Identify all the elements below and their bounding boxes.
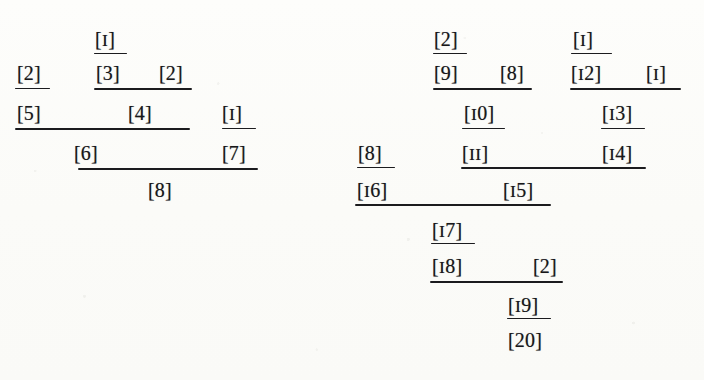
proof-node: [20] bbox=[508, 330, 542, 350]
inference-rule-line bbox=[433, 53, 467, 54]
inference-rule-line bbox=[355, 204, 551, 206]
proof-node: [I0] bbox=[464, 103, 494, 124]
proof-node: [I7] bbox=[432, 220, 462, 241]
inference-rule-line bbox=[357, 167, 395, 168]
derivation-figure: [I][2][3][2][5][4][I][6][7][8][2][I][9][… bbox=[0, 0, 704, 380]
inference-rule-line bbox=[461, 167, 646, 169]
inference-rule-line bbox=[433, 88, 532, 90]
proof-node: [2] bbox=[533, 256, 557, 276]
proof-node: [I2] bbox=[571, 63, 601, 84]
inference-rule-line bbox=[571, 53, 612, 54]
inference-rule-line bbox=[601, 128, 645, 129]
inference-rule-line bbox=[570, 88, 681, 90]
proof-node: [2] bbox=[434, 29, 458, 49]
proof-node: [8] bbox=[500, 63, 524, 83]
proof-node: [I] bbox=[573, 29, 593, 50]
right-derivation-tree: [2][I][9][8][I2][I][I0][I3][8][II][I4][I… bbox=[0, 0, 704, 380]
proof-node: [8] bbox=[358, 143, 382, 163]
proof-node: [I3] bbox=[602, 103, 632, 124]
proof-node: [9] bbox=[434, 63, 458, 83]
proof-node: [I9] bbox=[508, 295, 538, 316]
proof-node: [II] bbox=[462, 143, 488, 164]
proof-node: [I6] bbox=[357, 180, 387, 201]
inference-rule-line bbox=[431, 243, 475, 244]
inference-rule-line bbox=[507, 318, 551, 319]
proof-node: [I] bbox=[646, 63, 666, 84]
proof-node: [I5] bbox=[503, 180, 533, 201]
inference-rule-line bbox=[430, 281, 563, 283]
inference-rule-line bbox=[462, 128, 505, 129]
proof-node: [I4] bbox=[602, 143, 632, 164]
proof-node: [I8] bbox=[432, 256, 462, 277]
